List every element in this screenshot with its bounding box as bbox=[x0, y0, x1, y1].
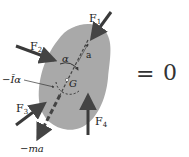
svg-text:F3: F3 bbox=[16, 102, 28, 116]
free-body-diagram: F1 F2 F3 F4 α a G −Īα −ma bbox=[0, 0, 189, 157]
label-inertia-moment: −Īα bbox=[2, 74, 21, 85]
rigid-body bbox=[39, 24, 111, 130]
svg-text:F1: F1 bbox=[89, 12, 101, 26]
label-inertia-force: −ma bbox=[20, 143, 44, 154]
label-a-bar: a bbox=[86, 50, 92, 60]
svg-text:F2: F2 bbox=[30, 40, 42, 54]
svg-text:F4: F4 bbox=[95, 115, 108, 129]
label-alpha: α bbox=[62, 53, 69, 64]
equals-sign: = bbox=[136, 61, 154, 86]
equation-rhs: 0 bbox=[163, 60, 177, 85]
label-g: G bbox=[69, 78, 77, 89]
